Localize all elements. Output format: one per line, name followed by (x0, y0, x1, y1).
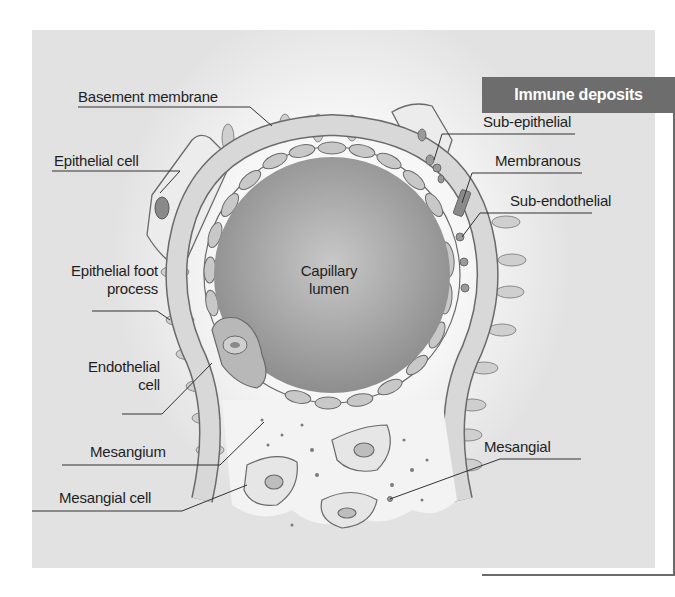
label-membranous: Membranous (495, 152, 581, 170)
label-epithelial-foot-process: Epithelial foot process (40, 262, 158, 298)
label-mesangium: Mesangium (90, 443, 166, 461)
label-sub-epithelial: Sub-epithelial (483, 113, 571, 131)
label-endothelial-cell-line1: Endothelial (60, 358, 160, 376)
label-epithelial-foot-process-line1: Epithelial foot (40, 262, 158, 280)
diagram-panel: Immune deposits (32, 30, 655, 568)
label-sub-endothelial: Sub-endothelial (510, 192, 611, 210)
label-basement-membrane: Basement membrane (78, 88, 218, 106)
label-endothelial-cell: Endothelial cell (60, 358, 160, 394)
label-epithelial-foot-process-line2: process (40, 280, 158, 298)
epithelial-nucleus (155, 197, 169, 219)
immune-deposits-title: Immune deposits (482, 77, 675, 113)
label-capillary-lumen-line1: Capillary (287, 262, 371, 280)
label-mesangial-cell: Mesangial cell (59, 489, 151, 507)
label-mesangial-deposit: Mesangial (484, 438, 551, 456)
label-capillary-lumen-line2: lumen (287, 280, 371, 298)
label-epithelial-cell: Epithelial cell (54, 152, 139, 170)
label-endothelial-cell-line2: cell (60, 376, 160, 394)
label-capillary-lumen: Capillary lumen (287, 262, 371, 298)
